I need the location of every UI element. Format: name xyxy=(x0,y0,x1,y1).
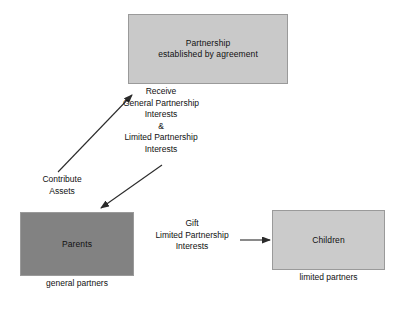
node-children-label: Children xyxy=(312,235,344,246)
node-parents-caption: general partners xyxy=(20,278,134,289)
node-children-caption: limited partners xyxy=(272,272,385,283)
edge-receive-interests-arrow xyxy=(101,165,162,208)
diagram-canvas: Partnership established by agreement Par… xyxy=(0,0,407,310)
edge-label-contribute-assets: Contribute Assets xyxy=(32,174,92,197)
edge-label-gift-interests: Gift Limited Partnership Interests xyxy=(146,218,238,253)
node-partnership[interactable]: Partnership established by agreement xyxy=(128,14,288,84)
node-parents[interactable]: Parents xyxy=(20,212,134,276)
edge-label-receive-interests: Receive General Partnership Interests & … xyxy=(96,86,226,155)
node-partnership-label: Partnership established by agreement xyxy=(158,38,258,60)
node-parents-label: Parents xyxy=(62,239,92,250)
node-children[interactable]: Children xyxy=(272,210,385,270)
